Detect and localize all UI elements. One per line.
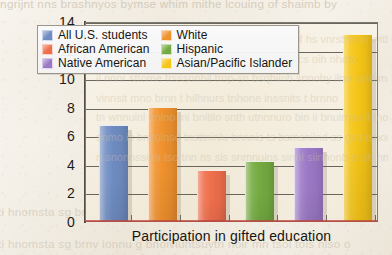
- bar-highlight: [149, 108, 177, 221]
- legend-label: African American: [58, 43, 150, 56]
- bar-asian-pacific-islander: [343, 34, 372, 221]
- bar-chart: 14 12 10 8 6 4 2 0 / il und il mtupn ssm…: [0, 0, 392, 255]
- legend-item-all-u-s-students: All U.S. students: [42, 29, 150, 42]
- y-axis-label-6: 6: [67, 128, 75, 144]
- bar-shadow: [372, 39, 376, 221]
- bar-all-u-s-students: [99, 125, 128, 221]
- legend-item-white: White: [161, 29, 293, 42]
- bar-highlight: [295, 148, 323, 221]
- bar-white: [148, 107, 177, 221]
- legend-label: Native American: [58, 57, 146, 70]
- legend-swatch-icon: [161, 30, 172, 41]
- bar-highlight: [198, 171, 226, 221]
- legend-label: Hispanic: [177, 43, 223, 56]
- bar-african-american: [197, 170, 226, 221]
- legend-swatch-icon: [161, 58, 172, 69]
- legend-item-hispanic: Hispanic: [161, 43, 293, 56]
- legend-label: All U.S. students: [58, 29, 148, 42]
- baseline-axis: [85, 220, 378, 222]
- gridline-10: [86, 80, 377, 81]
- bar-hispanic: [245, 161, 274, 221]
- bar-shadow: [323, 152, 327, 221]
- bar-shadow: [274, 166, 278, 221]
- y-axis-label-2: 2: [67, 185, 75, 201]
- y-axis-label-0: 0: [67, 214, 75, 230]
- bar-highlight: [246, 162, 274, 221]
- legend-swatch-icon: [42, 58, 53, 69]
- legend-item-african-american: African American: [42, 43, 150, 56]
- chart-legend: All U.S. studentsWhiteAfrican AmericanHi…: [37, 25, 299, 74]
- bar-highlight: [344, 35, 372, 221]
- legend-item-asian-pacific-islander: Asian/Pacific Islander: [161, 57, 293, 70]
- legend-swatch-icon: [42, 30, 53, 41]
- y-axis-label-8: 8: [67, 100, 75, 116]
- bar-native-american: [294, 147, 323, 221]
- legend-swatch-icon: [42, 44, 53, 55]
- y-axis-label-4: 4: [67, 157, 75, 173]
- bar-shadow: [128, 130, 132, 221]
- bar-shadow: [177, 112, 181, 221]
- legend-label: White: [177, 29, 208, 42]
- gridline-8: [86, 109, 377, 110]
- bar-highlight: [100, 126, 128, 221]
- legend-swatch-icon: [161, 44, 172, 55]
- legend-item-native-american: Native American: [42, 57, 150, 70]
- x-axis-title: Participation in gifted education: [85, 228, 378, 244]
- legend-label: Asian/Pacific Islander: [177, 57, 293, 70]
- gridline-14: [86, 23, 377, 24]
